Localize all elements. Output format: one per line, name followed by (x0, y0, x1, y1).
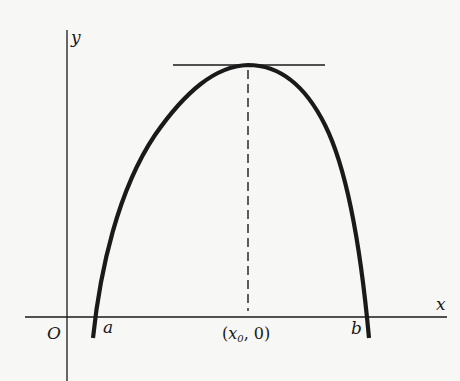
point-b-label: b (351, 318, 362, 338)
concave-down-curve (93, 65, 369, 338)
point-x0-label: (x0, 0) (222, 324, 270, 344)
y-axis-label: y (70, 27, 81, 47)
origin-label: O (47, 323, 61, 343)
diagram-canvas: y x O a b (x0, 0) (0, 0, 460, 381)
x-axis-label: x (436, 294, 446, 314)
point-a-label: a (103, 317, 113, 337)
